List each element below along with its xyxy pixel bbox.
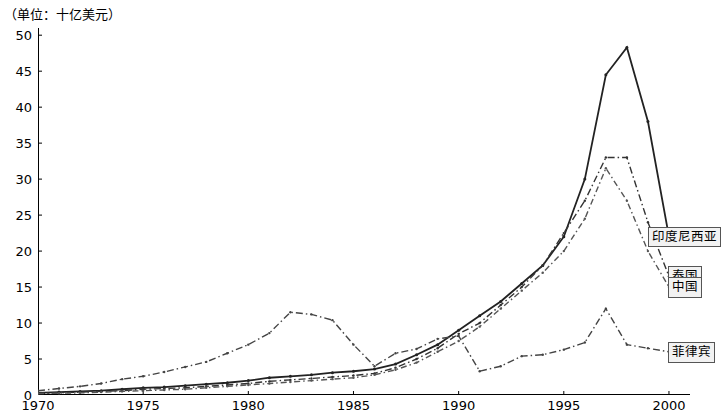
series-3 [38, 307, 670, 391]
series-1 [38, 156, 670, 394]
x-tick-label: 1995 [547, 398, 580, 413]
axes [38, 28, 690, 395]
series-2 [38, 167, 670, 395]
y-tick-label: 5 [24, 352, 32, 367]
x-tick-label: 1985 [337, 398, 370, 413]
y-tick-label: 50 [15, 28, 32, 43]
y-tick-label: 40 [15, 100, 32, 115]
x-tick-label: 1975 [127, 398, 160, 413]
series-callout-0: 印度尼西亚 [648, 227, 721, 248]
y-tick-label: 20 [15, 244, 32, 259]
y-tick-label: 35 [15, 136, 32, 151]
plot-area [38, 28, 690, 395]
series-callout-3: 菲律宾 [668, 342, 715, 363]
y-tick-label: 10 [15, 316, 32, 331]
y-tick-label: 45 [15, 64, 32, 79]
y-tick-label: 30 [15, 172, 32, 187]
plot-svg [38, 28, 690, 395]
y-axis-tick-labels: 05101520253035404550 [0, 28, 32, 395]
x-tick-label: 2000 [652, 398, 685, 413]
x-tick-label: 1980 [232, 398, 265, 413]
unit-label: （单位：十亿美元） [4, 4, 121, 23]
x-tick-label: 1990 [442, 398, 475, 413]
series-0 [38, 46, 670, 394]
series-callout-2: 中国 [668, 277, 702, 298]
y-tick-label: 25 [15, 208, 32, 223]
line-chart: （单位：十亿美元） 05101520253035404550 197019751… [0, 0, 728, 420]
x-tick-label: 1970 [21, 398, 54, 413]
x-axis-tick-labels: 1970197519801985199019952000 [38, 398, 728, 418]
y-tick-label: 15 [15, 280, 32, 295]
